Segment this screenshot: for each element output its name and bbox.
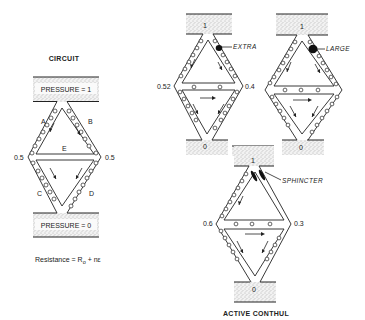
circuit-panel: CIRCUIT PRESSURE = 1 PRESSURE = 0: [14, 55, 115, 265]
bottom-pressure-label: PRESSURE = 0: [41, 222, 91, 229]
top-reservoir: PRESSURE = 1: [33, 77, 99, 102]
active-top-pressure: 1: [251, 157, 255, 164]
extra-right-node-pressure: 0.4: [245, 83, 255, 90]
sphincter-annotation: SPHINCTER: [282, 177, 323, 184]
circuit-title: CIRCUIT: [49, 55, 80, 62]
active-right-node-pressure: 0.3: [294, 220, 304, 227]
extra-top-pressure: 1: [203, 22, 207, 29]
vessel-label-a: A: [41, 118, 46, 125]
large-bottom-pressure: 0: [299, 144, 303, 151]
extra-annotation: EXTRA: [233, 43, 257, 50]
vessel-label-b: B: [88, 118, 93, 125]
right-node-pressure: 0.5: [105, 154, 115, 161]
top-pressure-label: PRESSURE = 1: [41, 86, 91, 93]
extra-bottom-pressure: 0: [203, 143, 207, 150]
left-node-pressure: 0.5: [14, 154, 24, 161]
vessel-label-e: E: [62, 145, 67, 152]
circulation-diagram: CIRCUIT PRESSURE = 1 PRESSURE = 0: [0, 0, 365, 320]
vessel-label-c: C: [37, 190, 42, 197]
vessel-label-d: D: [89, 190, 94, 197]
active-control-caption: ACTIVE CONTHUL: [223, 310, 289, 317]
bottom-reservoir: PRESSURE = 0: [33, 213, 99, 237]
active-left-node-pressure: 0.6: [203, 220, 213, 227]
extra-panel: 1 EXTRA 0.52 0.4: [157, 14, 257, 155]
active-control-panel: 1 SPHINCTER 0.6 0.3: [203, 146, 323, 317]
active-bottom-pressure: 0: [252, 286, 256, 293]
large-annotation: LARGE: [326, 45, 350, 52]
extra-left-node-pressure: 0.52: [157, 83, 171, 90]
resistance-formula: Resistance = Ro + nε: [35, 256, 101, 265]
large-top-pressure: 1: [300, 23, 304, 30]
